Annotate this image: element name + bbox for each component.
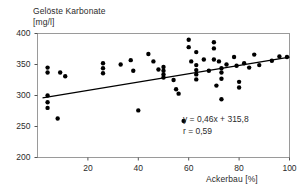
data-point [174, 87, 178, 91]
data-point [187, 45, 191, 49]
plot-frame [38, 34, 290, 158]
x-axis-title: Ackerbau [%] [206, 174, 258, 185]
data-point [217, 59, 221, 63]
y-tick-label: 400 [9, 28, 31, 38]
data-point [194, 50, 198, 54]
data-point [146, 52, 150, 56]
x-tick-label: 60 [177, 163, 201, 173]
data-point [219, 70, 223, 74]
data-point [252, 52, 256, 56]
data-point [45, 100, 49, 104]
data-point [45, 106, 49, 110]
y-tick-label: 250 [9, 121, 31, 131]
regression-equation-label: y = 0,46x + 315,8 [183, 114, 249, 124]
plot-canvas [0, 0, 304, 191]
data-point [257, 63, 261, 67]
data-point [247, 65, 251, 69]
data-point [214, 83, 218, 87]
data-point [101, 66, 105, 70]
data-point [237, 85, 241, 89]
data-point [118, 62, 122, 66]
y-tick-label: 350 [9, 59, 31, 69]
data-point [189, 59, 193, 63]
data-point [194, 77, 198, 81]
data-point [101, 61, 105, 65]
data-point [212, 57, 216, 61]
data-point [202, 57, 206, 61]
y-tick-label: 300 [9, 90, 31, 100]
data-point [129, 58, 133, 62]
data-point [131, 69, 135, 73]
data-point [219, 97, 223, 101]
scatter-chart-figure: Gelöste Karbonate[mg/l] Ackerbau [%] y =… [0, 0, 304, 191]
data-point [101, 71, 105, 75]
data-point [156, 67, 160, 71]
data-point [212, 40, 216, 44]
data-point [187, 38, 191, 42]
data-point [151, 59, 155, 63]
y-axis-title-line2: [mg/l] [33, 17, 54, 27]
data-point [176, 91, 180, 95]
data-point [55, 116, 59, 120]
data-point [63, 74, 67, 78]
data-point [237, 80, 241, 84]
data-point [58, 70, 62, 74]
x-tick-label: 40 [126, 163, 150, 173]
data-point [45, 70, 49, 74]
y-axis-title: Gelöste Karbonate[mg/l] [33, 6, 106, 27]
data-point [194, 63, 198, 67]
x-tick-label: 100 [278, 163, 302, 173]
data-point [45, 65, 49, 69]
y-axis-title-line1: Gelöste Karbonate [33, 6, 106, 16]
x-tick-label: 80 [227, 163, 251, 173]
y-tick-label: 200 [9, 152, 31, 162]
data-point [212, 46, 216, 50]
data-point [232, 55, 236, 59]
x-tick-label: 20 [76, 163, 100, 173]
data-point [136, 108, 140, 112]
data-point [219, 77, 223, 81]
data-point [224, 62, 228, 66]
correlation-coefficient-label: r = 0,59 [183, 126, 212, 136]
data-point [171, 78, 175, 82]
